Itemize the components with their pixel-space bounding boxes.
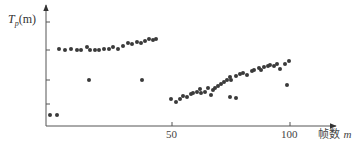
data-point bbox=[140, 78, 144, 82]
data-point bbox=[191, 91, 195, 95]
data-point bbox=[229, 78, 233, 82]
x-axis-label: 帧数 m bbox=[318, 125, 351, 141]
data-point bbox=[262, 65, 266, 69]
data-point bbox=[206, 86, 210, 90]
data-point bbox=[69, 47, 73, 51]
data-point bbox=[285, 83, 289, 87]
data-point bbox=[178, 97, 182, 101]
data-point bbox=[93, 48, 97, 52]
data-point bbox=[234, 74, 238, 78]
data-point bbox=[241, 71, 245, 75]
data-point bbox=[135, 40, 139, 44]
data-point bbox=[259, 68, 263, 72]
x-tick-label-100: 100 bbox=[281, 128, 298, 140]
data-point bbox=[75, 48, 79, 52]
y-axis-label: Tp(m) bbox=[8, 12, 36, 28]
data-point bbox=[57, 47, 61, 51]
data-point bbox=[283, 62, 287, 66]
data-point bbox=[169, 97, 173, 101]
data-point bbox=[245, 73, 249, 77]
data-point bbox=[225, 78, 229, 82]
data-point bbox=[111, 45, 115, 49]
data-point bbox=[195, 90, 199, 94]
data-points bbox=[48, 37, 291, 117]
data-point bbox=[275, 62, 279, 66]
data-point bbox=[116, 47, 120, 51]
data-point bbox=[287, 59, 291, 63]
data-point bbox=[48, 113, 52, 117]
data-point bbox=[181, 94, 185, 98]
data-point bbox=[147, 37, 151, 41]
data-point bbox=[107, 47, 111, 51]
data-point bbox=[130, 42, 134, 46]
data-point bbox=[121, 44, 125, 48]
y-ticks bbox=[46, 22, 50, 104]
data-point bbox=[278, 67, 282, 71]
data-point bbox=[234, 96, 238, 100]
data-point bbox=[139, 41, 143, 45]
data-point bbox=[185, 95, 189, 99]
data-point bbox=[154, 37, 158, 41]
data-point bbox=[63, 48, 67, 52]
data-point bbox=[252, 68, 256, 72]
data-point bbox=[102, 47, 106, 51]
data-point bbox=[199, 91, 203, 95]
data-point bbox=[203, 90, 207, 94]
data-point bbox=[87, 78, 91, 82]
data-point bbox=[97, 48, 101, 52]
data-point bbox=[88, 48, 92, 52]
data-point bbox=[55, 113, 59, 117]
data-point bbox=[209, 93, 213, 97]
data-point bbox=[79, 48, 83, 52]
x-ticks bbox=[172, 122, 290, 126]
data-point bbox=[174, 100, 178, 104]
data-point bbox=[126, 41, 130, 45]
data-point bbox=[198, 87, 202, 91]
data-point bbox=[143, 39, 147, 43]
scatter-chart bbox=[0, 0, 361, 152]
x-tick-label-50: 50 bbox=[166, 128, 177, 140]
data-point bbox=[85, 45, 89, 49]
data-point bbox=[228, 95, 232, 99]
data-point bbox=[268, 63, 272, 67]
